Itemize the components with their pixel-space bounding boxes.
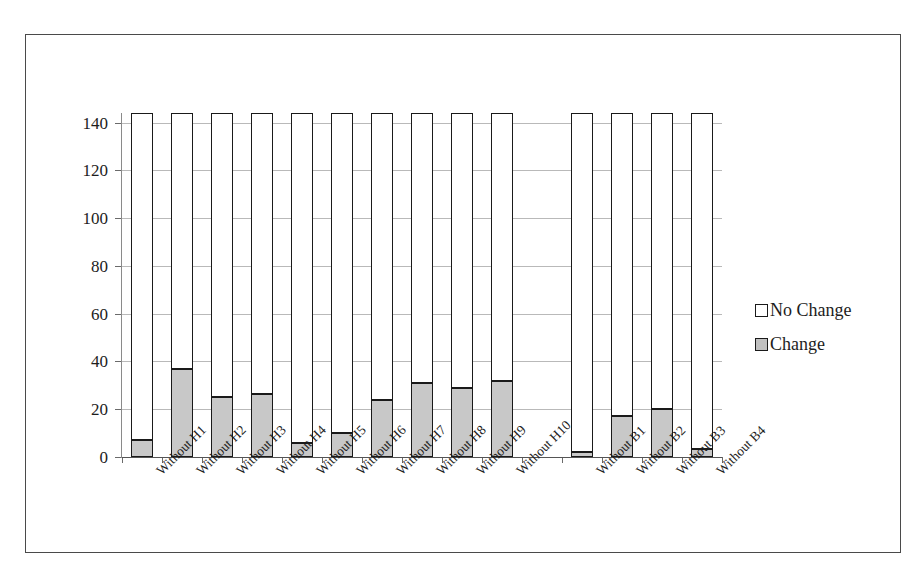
y-tick-label-40: 40: [26, 353, 108, 370]
y-tick-label-120: 120: [26, 162, 108, 179]
x-axis-label: Without H2: [194, 468, 204, 478]
y-tick-label-100: 100: [26, 210, 108, 227]
bar-segment-no-change[interactable]: [131, 113, 153, 440]
bar-segment-change[interactable]: [131, 440, 153, 457]
legend-item[interactable]: No Change: [755, 293, 905, 327]
bar-segment-no-change[interactable]: [291, 113, 313, 443]
bar-column[interactable]: [331, 113, 353, 457]
plot-area: [122, 113, 722, 457]
bar-segment-no-change[interactable]: [251, 113, 273, 394]
bar-segment-no-change[interactable]: [491, 113, 513, 381]
bar-segment-no-change[interactable]: [451, 113, 473, 388]
legend-swatch-icon: [755, 304, 768, 317]
chart-frame: 020406080100120140 Without H1Without H2W…: [25, 34, 901, 553]
bar-segment-no-change[interactable]: [331, 113, 353, 433]
bar-segment-no-change[interactable]: [211, 113, 233, 397]
bar-column[interactable]: [611, 113, 633, 457]
bar-column[interactable]: [691, 113, 713, 457]
legend-swatch-icon: [755, 338, 768, 351]
bar-segment-no-change[interactable]: [611, 113, 633, 416]
bar-segment-no-change[interactable]: [651, 113, 673, 409]
legend-item[interactable]: Change: [755, 327, 905, 361]
bar-column[interactable]: [411, 113, 433, 457]
y-tick-label-140: 140: [26, 115, 108, 132]
x-axis-label: Without H6: [354, 468, 364, 478]
x-axis-label: Without B4: [714, 468, 724, 478]
bar-segment-no-change[interactable]: [691, 113, 713, 449]
bar-column[interactable]: [371, 113, 393, 457]
x-axis-label: Without H8: [434, 468, 444, 478]
y-tick-label-80: 80: [26, 258, 108, 275]
x-axis-label: Without H1: [154, 468, 164, 478]
x-axis-label: Without H3: [234, 468, 244, 478]
bar-column[interactable]: [451, 113, 473, 457]
x-axis-label: Without H7: [394, 468, 404, 478]
x-axis-label: Without H4: [274, 468, 284, 478]
x-axis-label: Without H10: [514, 468, 524, 478]
x-axis-label: Without B2: [634, 468, 644, 478]
bar-column[interactable]: [211, 113, 233, 457]
bar-column[interactable]: [291, 113, 313, 457]
y-tick-label-60: 60: [26, 306, 108, 323]
y-tick-label-20: 20: [26, 401, 108, 418]
bar-segment-no-change[interactable]: [411, 113, 433, 383]
bar-segment-no-change[interactable]: [171, 113, 193, 369]
bar-column[interactable]: [171, 113, 193, 457]
bar-column[interactable]: [571, 113, 593, 457]
bar-segment-no-change[interactable]: [371, 113, 393, 400]
chart-legend: No ChangeChange: [755, 293, 905, 361]
bar-column[interactable]: [251, 113, 273, 457]
bar-column[interactable]: [131, 113, 153, 457]
y-tick-label-0: 0: [26, 449, 108, 466]
bar-column[interactable]: [491, 113, 513, 457]
x-axis-label: Without B3: [674, 468, 684, 478]
x-axis-label: Without H9: [474, 468, 484, 478]
x-axis-label: Without H5: [314, 468, 324, 478]
bar-segment-change[interactable]: [571, 452, 593, 457]
bar-segment-no-change[interactable]: [571, 113, 593, 452]
x-axis-label: Without B1: [594, 468, 604, 478]
legend-label: Change: [770, 334, 825, 355]
legend-label: No Change: [770, 300, 851, 321]
bar-column[interactable]: [651, 113, 673, 457]
